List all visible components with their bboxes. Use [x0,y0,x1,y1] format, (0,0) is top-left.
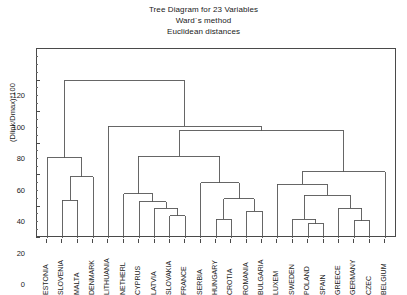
x-axis-leaf-label: POLAND [303,266,310,295]
x-axis-leaf-label: NETHERL [119,262,126,295]
x-axis-leaf-label: LATVIA [150,271,157,295]
y-axis-minor-tick [36,87,38,88]
x-axis-tick-mark [307,239,308,243]
chart-title-line-3: Euclidean distances [0,26,407,37]
y-axis-minor-tick [36,127,38,128]
x-axis-tick-mark [184,239,185,243]
x-axis-tick-mark [246,239,247,243]
x-axis-leaf-label: DENMARK [88,260,95,295]
plot-area [36,48,396,237]
y-axis-tick-label: 0 [21,281,25,289]
y-axis-tick-mark [36,80,40,81]
dendrogram-svg [37,49,397,238]
y-axis-minor-tick [36,158,38,159]
x-axis-tick-mark [292,239,293,243]
x-axis-leaf-label: BELGIUM [380,263,387,295]
chart-title-line-1: Tree Diagram for 23 Variables [0,4,407,15]
x-axis-tick-mark [46,239,47,243]
x-axis-leaf-label: FRANCE [180,266,187,295]
x-axis-tick-mark [61,239,62,243]
dendrogram-figure: Tree Diagram for 23 Variables Ward`s met… [0,0,407,295]
x-axis-leaf-label: ROMANIA [242,262,249,295]
y-axis-tick-mark [36,143,40,144]
x-axis-tick-mark [107,239,108,243]
y-axis-tick-mark [36,174,40,175]
x-axis-tick-mark [77,239,78,243]
x-axis-leaf-label: CROTIA [226,269,233,295]
x-axis-leaf-label: CYPRUS [134,266,141,295]
y-axis-tick-label: 60 [17,187,25,195]
y-axis-tick-mark [36,48,40,49]
x-axis-leaf-label: HUNGARY [211,260,218,295]
y-axis-minor-tick [36,150,38,151]
x-axis-leaf-label: SLOVAKIA [165,261,172,295]
x-axis-tick-mark [230,239,231,243]
x-axis-tick-mark [138,239,139,243]
y-axis-minor-tick [36,72,38,73]
x-axis-leaf-label: MALTA [73,273,80,295]
x-axis-leaf-label: GREECE [334,265,341,295]
x-axis-tick-mark [276,239,277,243]
x-axis-tick-mark [215,239,216,243]
y-axis-tick-labels: 020406080100120 [0,48,33,237]
y-axis-minor-tick [36,119,38,120]
y-axis-tick-label: 40 [17,218,25,226]
chart-title-block: Tree Diagram for 23 Variables Ward`s met… [0,4,407,37]
x-axis-tick-mark [154,239,155,243]
x-axis-leaf-label: SLOVENIA [57,260,64,295]
y-axis-tick-mark [36,206,40,207]
x-axis-tick-mark [200,239,201,243]
x-axis-leaf-label: LITHUANIA [103,258,110,295]
x-axis-leaf-label: SWEDEN [288,264,295,295]
y-axis-minor-tick [36,56,38,57]
x-axis-tick-mark [261,239,262,243]
y-axis-minor-tick [36,135,38,136]
x-axis-tick-mark [369,239,370,243]
y-axis-tick-mark [36,111,40,112]
y-axis-minor-tick [36,198,38,199]
x-axis-tick-mark [338,239,339,243]
x-axis-leaf-label: BULGARIA [257,260,264,295]
y-axis-minor-tick [36,213,38,214]
y-axis-tick-label: 80 [17,155,25,163]
y-axis-minor-tick [36,190,38,191]
x-axis-leaf-labels: ESTONIASLOVENIAMALTADENMARKLITHUANIANETH… [36,239,396,295]
x-axis-tick-mark [123,239,124,243]
y-axis-tick-mark [36,237,40,238]
x-axis-leaf-label: SPAIN [319,275,326,295]
y-axis-minor-tick [36,95,38,96]
y-axis-minor-tick [36,64,38,65]
y-axis-minor-tick [36,103,38,104]
y-axis-minor-tick [36,182,38,183]
x-axis-leaf-label: GERMANY [349,260,356,295]
y-axis-minor-tick [36,221,38,222]
x-axis-tick-mark [169,239,170,243]
x-axis-tick-mark [353,239,354,243]
x-axis-leaf-label: ESTONIA [42,264,49,295]
chart-title-line-2: Ward`s method [0,15,407,26]
x-axis-leaf-label: CZEC [365,276,372,295]
y-axis-tick-label: 20 [17,250,25,258]
x-axis-tick-mark [323,239,324,243]
x-axis-tick-mark [384,239,385,243]
y-axis-title: (Dlink/Dmax)*100 [8,23,17,203]
x-axis-leaf-label: LUXEM [272,271,279,295]
y-axis-minor-tick [36,229,38,230]
x-axis-tick-mark [92,239,93,243]
x-axis-leaf-label: SERBIA [196,269,203,295]
y-axis-minor-tick [36,166,38,167]
